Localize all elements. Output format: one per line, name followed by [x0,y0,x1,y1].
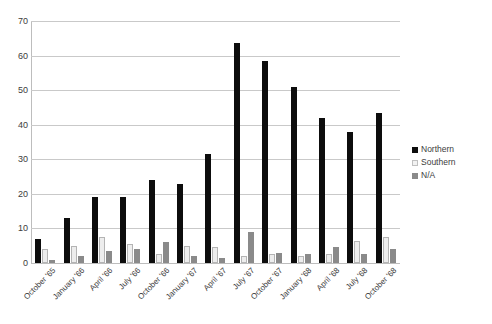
bar-na [134,249,140,263]
bar-northern [262,61,268,263]
y-axis-labels: 706050403020100 [0,21,28,263]
bar-group [286,21,314,263]
x-axis-tick-label: April '66 [88,266,115,293]
bar-southern [184,246,190,263]
bar-group [315,21,343,263]
bar-northern [177,184,183,264]
bar-chart: 706050403020100 October '65January '66Ap… [0,0,492,324]
y-axis-tick-label: 0 [2,259,28,268]
bar-northern [205,154,211,263]
bar-southern [156,254,162,263]
bar-southern [99,237,105,263]
x-axis-labels: October '65January '66April '66July '66O… [31,264,400,322]
legend-item-southern: Southern [412,156,488,169]
bar-group [343,21,371,263]
bar-na [333,247,339,263]
bar-northern [234,43,240,263]
legend-item-na: N/A [412,169,488,182]
bar-southern [212,247,218,263]
legend-label-northern: Northern [421,145,454,154]
bar-northern [92,197,98,263]
plot-area [31,21,400,263]
bar-na [163,242,169,263]
y-axis-tick-label: 30 [2,155,28,164]
y-axis-tick-label: 60 [2,52,28,61]
legend-swatch-na-icon [412,173,418,179]
bar-na [219,258,225,263]
bar-northern [120,197,126,263]
legend-swatch-southern-icon [412,160,418,166]
bar-na [248,232,254,263]
legend-label-southern: Southern [421,158,456,167]
bar-southern [383,237,389,263]
bar-northern [291,87,297,263]
bar-southern [354,241,360,263]
bar-southern [326,254,332,263]
bar-group [116,21,144,263]
x-axis-tick-label: July '67 [231,266,256,291]
bar-northern [347,132,353,263]
bar-southern [42,249,48,263]
bar-northern [64,218,70,263]
bar-northern [149,180,155,263]
y-axis-tick-label: 10 [2,224,28,233]
bar-na [78,256,84,263]
bar-group [31,21,59,263]
y-axis-tick-label: 70 [2,17,28,26]
bar-group [59,21,87,263]
bar-southern [298,256,304,263]
bar-group [372,21,400,263]
bar-northern [35,239,41,263]
bar-na [361,254,367,263]
x-axis-tick-label: July '68 [344,266,369,291]
bar-group [201,21,229,263]
x-axis-tick-label: April '67 [201,266,228,293]
y-axis-tick-label: 50 [2,86,28,95]
y-axis-tick-label: 40 [2,121,28,130]
legend-swatch-northern-icon [412,147,418,153]
bar-northern [319,118,325,263]
bar-group [173,21,201,263]
bar-na [305,254,311,263]
bar-group [258,21,286,263]
bar-southern [127,244,133,263]
bar-northern [376,113,382,263]
bar-na [276,253,282,263]
bar-na [49,260,55,263]
x-axis-tick-label: July '66 [117,266,142,291]
bar-group [230,21,258,263]
bar-southern [269,254,275,263]
bar-group [88,21,116,263]
bar-southern [241,256,247,263]
chart-legend: Northern Southern N/A [412,143,488,182]
bar-groups [31,21,400,263]
bar-group [145,21,173,263]
bar-na [390,249,396,263]
legend-item-northern: Northern [412,143,488,156]
y-axis-tick-label: 20 [2,190,28,199]
legend-label-na: N/A [421,171,435,180]
bar-na [191,256,197,263]
bar-na [106,251,112,263]
x-axis-tick-label: April '68 [315,266,342,293]
bar-southern [71,246,77,263]
